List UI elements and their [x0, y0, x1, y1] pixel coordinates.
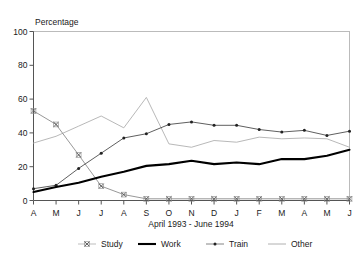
- x-tick-label: J: [347, 208, 351, 218]
- y-tick-label: 20: [18, 162, 28, 172]
- x-tick-label: F: [257, 208, 262, 218]
- data-point-marker: [213, 124, 216, 127]
- x-tick-label: A: [121, 208, 127, 218]
- x-tick-label: N: [188, 208, 194, 218]
- x-tick-label: J: [99, 208, 103, 218]
- x-tick-label: A: [31, 208, 37, 218]
- legend-marker-dot-icon: [214, 243, 217, 246]
- x-tick-label: M: [278, 208, 285, 218]
- data-point-marker: [280, 131, 283, 134]
- y-tick-label: 80: [18, 60, 28, 70]
- legend-label: Train: [229, 239, 248, 249]
- data-point-marker: [325, 134, 328, 137]
- x-tick-label: O: [166, 208, 173, 218]
- data-point-marker: [167, 123, 170, 126]
- x-tick-label: J: [77, 208, 81, 218]
- data-point-marker: [235, 124, 238, 127]
- x-tick-label: M: [53, 208, 60, 218]
- x-tick-label: J: [235, 208, 239, 218]
- x-tick-label: A: [302, 208, 308, 218]
- x-tick-label: D: [211, 208, 217, 218]
- data-point-marker: [190, 120, 193, 123]
- legend-label: Other: [291, 239, 312, 249]
- legend-label: Work: [161, 239, 181, 249]
- line-chart: Percentage 020406080100 AMJJASONDJFMAMJ …: [0, 0, 363, 260]
- chart-container: Percentage 020406080100 AMJJASONDJFMAMJ …: [0, 0, 363, 260]
- x-tick-label: M: [323, 208, 330, 218]
- y-tick-label: 100: [13, 27, 27, 37]
- data-point-marker: [348, 130, 351, 133]
- legend-label: Study: [101, 239, 123, 249]
- data-point-marker: [145, 132, 148, 135]
- data-point-marker: [303, 129, 306, 132]
- y-tick-label: 40: [18, 128, 28, 138]
- x-tick-label: S: [144, 208, 150, 218]
- data-point-marker: [258, 128, 261, 131]
- data-point-marker: [122, 136, 125, 139]
- y-tick-label: 60: [18, 94, 28, 104]
- data-point-marker: [77, 167, 80, 170]
- x-axis-title: April 1993 - June 1994: [148, 219, 234, 229]
- y-axis-title: Percentage: [35, 17, 79, 27]
- data-point-marker: [100, 152, 103, 155]
- data-point-marker: [32, 187, 35, 190]
- y-tick-label: 0: [23, 196, 28, 206]
